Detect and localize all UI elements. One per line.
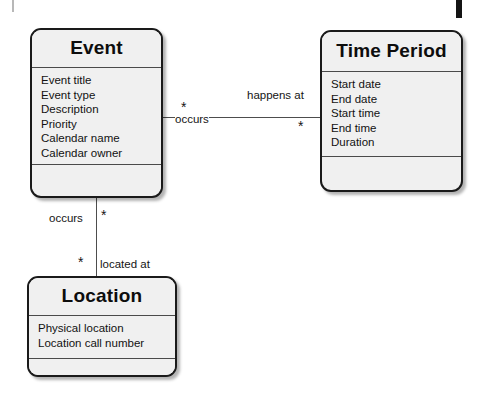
association-role-located-at: located at (100, 258, 150, 270)
attribute-item: Start time (331, 106, 461, 121)
entity-operation-list-event (32, 165, 161, 189)
entity-operation-list-location (29, 359, 175, 376)
entity-attribute-list-event: Event title Event type Description Prior… (32, 68, 161, 164)
attribute-item: Priority (41, 117, 161, 132)
attribute-item: Event title (41, 73, 161, 88)
entity-box-time-period[interactable]: Time Period Start date End date Start ti… (320, 30, 463, 192)
association-role-happens-at: happens at (247, 89, 304, 101)
multiplicity-event-side-time-period: * (181, 102, 186, 112)
entity-operation-list-time-period (322, 157, 461, 179)
diagram-canvas: * occurs happens at * occurs * * located… (0, 0, 482, 408)
association-role-occurs-location: occurs (49, 212, 83, 224)
attribute-item: Duration (331, 135, 461, 150)
attribute-item: Description (41, 102, 161, 117)
attribute-item: Calendar name (41, 131, 161, 146)
attribute-item: Location call number (38, 336, 175, 351)
entity-attribute-list-location: Physical location Location call number (29, 316, 175, 358)
association-role-occurs-time-period: occurs (175, 113, 209, 125)
attribute-item: End date (331, 92, 461, 107)
multiplicity-time-period-side: * (298, 121, 303, 131)
multiplicity-event-side-location: * (101, 210, 106, 220)
entity-title-time-period: Time Period (322, 32, 461, 71)
multiplicity-location-side: * (78, 257, 83, 267)
attribute-item: Event type (41, 88, 161, 103)
scan-artifact-top-right-icon (456, 0, 462, 18)
entity-attribute-list-time-period: Start date End date Start time End time … (322, 72, 461, 156)
scan-artifact-top-left-icon (12, 0, 14, 12)
entity-box-location[interactable]: Location Physical location Location call… (27, 276, 177, 377)
attribute-item: Physical location (38, 321, 175, 336)
entity-box-event[interactable]: Event Event title Event type Description… (30, 28, 163, 198)
association-line-event-location[interactable] (96, 197, 97, 277)
attribute-item: Start date (331, 77, 461, 92)
entity-title-location: Location (29, 278, 175, 315)
attribute-item: End time (331, 121, 461, 136)
attribute-item: Calendar owner (41, 146, 161, 161)
entity-title-event: Event (32, 30, 161, 67)
